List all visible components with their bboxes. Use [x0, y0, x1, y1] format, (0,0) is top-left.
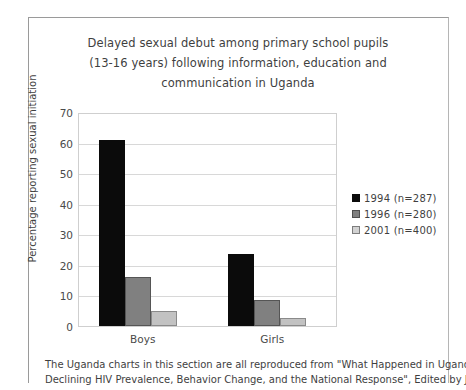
bar-group-boys: [99, 114, 177, 326]
y-axis-tick-50: 50: [60, 168, 73, 180]
bar-group-girls: [228, 114, 306, 326]
y-axis-tick-labels: 010203040506070: [40, 113, 73, 327]
x-axis-label-boys: Boys: [78, 333, 208, 345]
bar-boys-series-1: [125, 277, 151, 326]
y-axis-tick-0: 0: [66, 321, 73, 333]
legend-swatch-icon-1: [352, 210, 360, 218]
legend-label-0: 1994 (n=287): [364, 193, 437, 204]
bar-boys-series-2: [151, 311, 177, 326]
legend-label-2: 2001 (n=400): [364, 225, 437, 236]
bar-girls-series-0: [228, 254, 254, 326]
y-axis-tick-30: 30: [60, 229, 73, 241]
bar-girls-series-2: [280, 318, 306, 326]
chart-title: Delayed sexual debut among primary schoo…: [38, 33, 438, 93]
legend-item-2: 2001 (n=400): [352, 222, 437, 238]
y-axis-tick-70: 70: [60, 107, 73, 119]
legend-item-1: 1996 (n=280): [352, 206, 437, 222]
plot-area: [78, 113, 337, 327]
legend-swatch-icon-0: [352, 194, 360, 202]
legend-label-1: 1996 (n=280): [364, 209, 437, 220]
legend-item-0: 1994 (n=287): [352, 190, 437, 206]
x-axis-label-girls: Girls: [208, 333, 338, 345]
chart-title-line-1: Delayed sexual debut among primary schoo…: [38, 33, 438, 53]
y-axis-title: Percentage reporting sexual initiation: [27, 74, 38, 264]
y-axis-tick-10: 10: [60, 290, 73, 302]
chart-title-line-3: communication in Uganda: [38, 73, 438, 93]
legend-swatch-icon-2: [352, 226, 360, 234]
chart-title-line-2: (13-16 years) following information, edu…: [38, 53, 438, 73]
y-axis-tick-40: 40: [60, 199, 73, 211]
footnote-line-1: The Uganda charts in this section are al…: [45, 357, 445, 372]
footnote: The Uganda charts in this section are al…: [45, 357, 445, 387]
bar-girls-series-1: [254, 300, 280, 326]
bar-boys-series-0: [99, 140, 125, 326]
chart-legend: 1994 (n=287)1996 (n=280)2001 (n=400): [352, 190, 437, 238]
y-axis-tick-60: 60: [60, 138, 73, 150]
footnote-line-2: Declining HIV Prevalence, Behavior Chang…: [45, 372, 445, 387]
y-axis-tick-20: 20: [60, 260, 73, 272]
